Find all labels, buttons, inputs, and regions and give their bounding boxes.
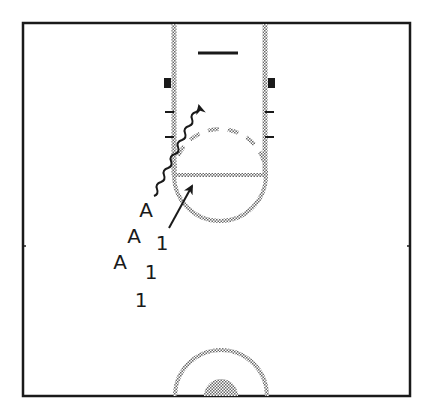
player-a-2: A (127, 226, 141, 246)
free-throw-circle-lower (174, 175, 266, 221)
court-boundary (23, 23, 410, 396)
player-a-1: A (139, 200, 153, 220)
center-circle-inner (204, 379, 238, 396)
player-1-1: 1 (156, 233, 169, 253)
player-a-3: A (113, 252, 127, 272)
basketball-court-diagram: A A A 1 1 1 (0, 0, 427, 417)
player-1-2: 1 (145, 262, 158, 282)
dribble-path-arrow (154, 106, 199, 196)
lane-block-right (268, 78, 275, 88)
free-throw-circle-upper-dashed (174, 129, 266, 175)
player-1-3: 1 (135, 290, 148, 310)
lane-block-left (164, 78, 171, 88)
